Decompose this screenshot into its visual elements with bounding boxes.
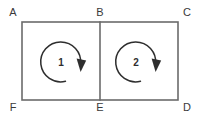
figure-canvas: 1 2 A B C F E D bbox=[0, 0, 200, 119]
vertex-label-c: C bbox=[183, 6, 191, 18]
vertex-label-e: E bbox=[96, 101, 103, 113]
region-label-1: 1 bbox=[58, 57, 64, 68]
geometry-figure: 1 2 A B C F E D bbox=[0, 0, 200, 119]
rotation-arrowhead-1 bbox=[77, 59, 87, 72]
vertex-label-b: B bbox=[96, 6, 103, 18]
rotation-arrowhead-2 bbox=[152, 59, 162, 72]
vertex-label-f: F bbox=[10, 101, 17, 113]
region-label-2: 2 bbox=[133, 57, 139, 68]
vertex-label-d: D bbox=[183, 101, 191, 113]
vertex-label-a: A bbox=[9, 6, 17, 18]
